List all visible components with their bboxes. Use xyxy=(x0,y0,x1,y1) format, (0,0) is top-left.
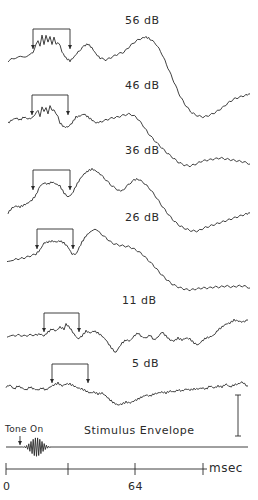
arrow-down-icon xyxy=(31,186,35,190)
trace-label-26db: 26 dB xyxy=(125,211,160,224)
time-unit-label: msec xyxy=(209,461,243,475)
trace-label-46db: 46 dB xyxy=(125,79,160,92)
arrow-down-icon xyxy=(30,111,34,115)
tone-on-label: Tone On xyxy=(5,424,43,434)
arrow-down-icon xyxy=(77,328,81,332)
analysis-window-bracket xyxy=(33,170,70,190)
response-trace xyxy=(7,229,250,291)
tick-label-64: 64 xyxy=(128,480,143,493)
tick-label-0: 0 xyxy=(3,480,11,493)
arrow-down-icon xyxy=(18,441,22,445)
trace-label-56db: 56 dB xyxy=(125,14,160,27)
arrow-down-icon xyxy=(68,45,72,49)
arrow-down-icon xyxy=(42,328,46,332)
time-axis xyxy=(6,463,207,475)
stimulus-waveform xyxy=(6,438,248,456)
arrow-down-icon xyxy=(71,245,75,249)
arrow-down-icon xyxy=(35,245,39,249)
response-trace xyxy=(8,106,250,167)
analysis-window-bracket xyxy=(44,313,79,332)
analysis-window-bracket xyxy=(33,29,70,49)
trace-label-11db: 11 dB xyxy=(122,294,157,307)
stimulus-envelope-label: Stimulus Envelope xyxy=(84,424,195,437)
trace-label-5db: 5 dB xyxy=(132,357,159,370)
stimulus-envelope xyxy=(6,436,248,456)
response-trace xyxy=(7,319,248,352)
analysis-window-bracket xyxy=(52,364,88,383)
arrow-down-icon xyxy=(66,111,70,115)
arrow-down-icon xyxy=(50,379,54,383)
arrow-down-icon xyxy=(68,186,72,190)
trace-label-36db: 36 dB xyxy=(125,144,160,157)
arrow-down-icon xyxy=(86,379,90,383)
response-trace xyxy=(6,382,248,405)
analysis-window-bracket xyxy=(32,95,68,115)
response-trace xyxy=(8,35,250,118)
